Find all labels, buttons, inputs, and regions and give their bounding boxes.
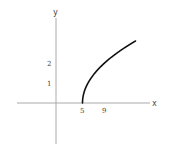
y-tick-2: 2 (47, 60, 51, 68)
x-axis-label: x (152, 99, 157, 108)
y-axis-label: y (53, 8, 58, 17)
function-graph: y x 5 9 1 2 (0, 0, 170, 144)
sqrt-curve (83, 41, 136, 103)
y-tick-1: 1 (47, 80, 51, 88)
x-tick-5: 5 (80, 107, 84, 115)
x-tick-9: 9 (102, 107, 106, 115)
